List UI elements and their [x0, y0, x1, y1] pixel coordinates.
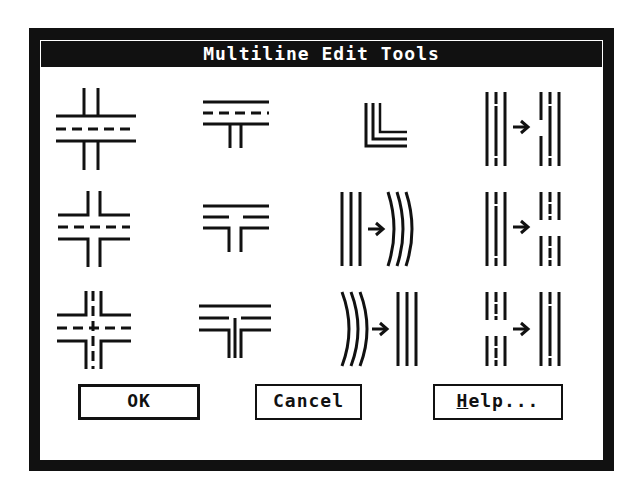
tool-cut-all-icon[interactable] [483, 190, 563, 270]
tool-closed-cross-icon[interactable] [54, 86, 138, 172]
help-label: elp... [468, 390, 539, 411]
tool-closed-tee-icon[interactable] [201, 96, 271, 156]
tool-add-vertex-icon[interactable] [338, 190, 418, 270]
tool-open-tee-icon[interactable] [201, 200, 271, 256]
ok-label: OK [127, 390, 151, 411]
tool-weld-all-icon[interactable] [483, 290, 563, 370]
ok-button[interactable]: OK [78, 384, 200, 420]
tool-delete-vertex-icon[interactable] [338, 290, 422, 370]
cancel-label: Cancel [273, 390, 344, 411]
tool-merged-tee-icon[interactable] [197, 302, 273, 362]
help-accelerator: H [457, 390, 469, 411]
tool-open-cross-icon[interactable] [56, 189, 136, 271]
help-button[interactable]: Help... [433, 384, 563, 420]
cancel-button[interactable]: Cancel [255, 384, 362, 420]
tool-merged-cross-icon[interactable] [55, 289, 137, 371]
tool-cut-single-icon[interactable] [483, 90, 563, 170]
dialog-title: Multiline Edit Tools [41, 41, 602, 67]
tool-corner-joint-icon[interactable] [361, 101, 409, 151]
